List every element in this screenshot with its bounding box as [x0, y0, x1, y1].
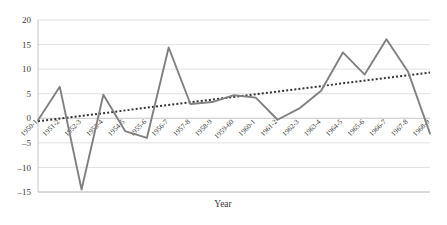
y-axis-tick-label: –15 — [17, 187, 32, 197]
x-axis-tick-label: 1966-7 — [368, 118, 388, 138]
x-axis-tick-label: 1963-4 — [302, 118, 322, 138]
x-axis-tick-label: 1952-3 — [63, 118, 83, 138]
y-axis-tick-label: 15 — [22, 40, 32, 50]
y-axis-tick-labels: 20151050–5–10–15 — [17, 15, 32, 197]
x-axis-tick-label: 1957-8 — [172, 118, 192, 138]
x-axis-tick-label: 1960-1 — [237, 118, 257, 138]
x-axis-tick-label: 1956-7 — [150, 118, 170, 138]
x-axis-tick-label: 1958-9 — [194, 118, 214, 138]
x-axis-title: Year — [214, 199, 232, 209]
x-axis-tick-label: 1962-3 — [281, 118, 301, 138]
x-axis-tick-label: 1964-5 — [324, 118, 344, 138]
x-axis-tick-label: 1961-2 — [259, 118, 279, 138]
trend-line-series — [38, 73, 430, 122]
y-axis-tick-label: –5 — [21, 138, 32, 148]
y-axis-tick-label: –10 — [17, 163, 32, 173]
y-axis-tick-label: 20 — [22, 15, 32, 25]
chart-container: 20151050–5–10–15 1950-11951-21952-31953-… — [0, 0, 447, 225]
x-axis-tick-label: 1965-6 — [346, 118, 366, 138]
x-axis-tick-labels: 1950-11951-21952-31953-41954-51955-61956… — [19, 118, 431, 141]
line-chart: 20151050–5–10–15 1950-11951-21952-31953-… — [0, 0, 447, 225]
y-axis-tick-label: 10 — [22, 64, 32, 74]
plot-area-border — [38, 20, 430, 192]
gridlines — [38, 20, 430, 192]
y-axis-tick-label: 5 — [27, 89, 32, 99]
x-axis-tick-label: 1967-8 — [390, 118, 410, 138]
x-axis-tick-label: 1951-2 — [41, 118, 61, 138]
x-axis-tick-label: 1959-60 — [213, 118, 236, 141]
